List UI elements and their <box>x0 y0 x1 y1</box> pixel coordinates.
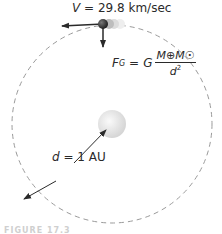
force-subscript: G <box>119 59 125 68</box>
fraction-numerator: M⊕M☉ <box>155 50 195 63</box>
orbit-diagram <box>0 0 222 234</box>
earth-sphere <box>98 19 108 29</box>
exponent: 2 <box>177 64 181 72</box>
distance-arrow <box>24 130 106 199</box>
figure-caption: FIGURE 17.3 <box>4 226 71 234</box>
fraction-denominator: d2 <box>170 63 181 77</box>
equals-sign: = <box>84 1 94 15</box>
distance-symbol: d <box>170 65 177 78</box>
force-symbol: F <box>112 56 119 70</box>
gravity-formula: FG = G M⊕M☉ d2 <box>112 50 196 77</box>
gravitational-constant: G <box>143 56 152 70</box>
equals-sign: = <box>63 150 73 164</box>
velocity-symbol: V <box>72 1 80 15</box>
velocity-label: V = 29.8 km/sec <box>72 1 171 15</box>
velocity-value: 29.8 km/sec <box>98 1 171 15</box>
distance-label: d = 1 AU <box>52 150 106 164</box>
equals-sign: = <box>129 56 139 70</box>
distance-value: 1 AU <box>77 150 105 164</box>
mass-fraction: M⊕M☉ d2 <box>155 50 195 77</box>
distance-symbol: d <box>52 150 60 164</box>
